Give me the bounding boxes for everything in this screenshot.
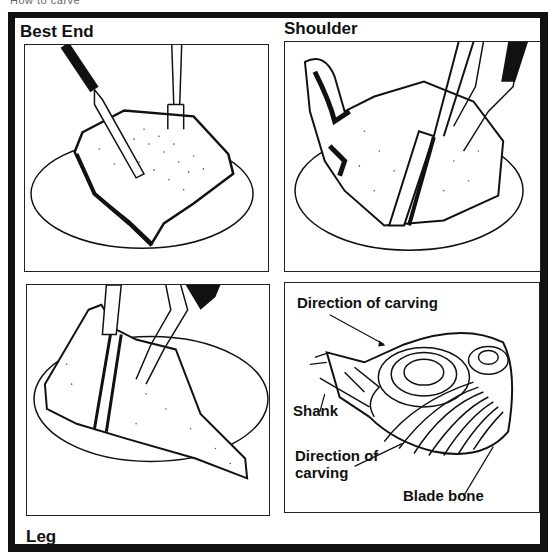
label-direction-of-carving-bottom-line2: carving — [295, 465, 348, 481]
leg-illustration — [27, 285, 269, 515]
label-best-end: Best End — [20, 23, 94, 40]
panel-best-end — [24, 44, 269, 272]
page-caption: How to carve — [10, 0, 80, 6]
label-shank: Shank — [293, 403, 338, 419]
label-direction-of-carving-top: Direction of carving — [297, 295, 438, 311]
panel-leg — [26, 284, 270, 516]
shoulder-illustration — [285, 42, 540, 271]
label-shoulder: Shoulder — [284, 20, 358, 37]
label-direction-of-carving-bottom-line1: Direction of — [295, 448, 378, 464]
panel-shoulder — [284, 41, 541, 272]
label-leg: Leg — [26, 528, 56, 545]
best-end-illustration — [25, 45, 268, 271]
panel-shoulder-diagram: Direction of carving Shank Direction of … — [284, 282, 540, 513]
label-blade-bone: Blade bone — [403, 488, 484, 504]
